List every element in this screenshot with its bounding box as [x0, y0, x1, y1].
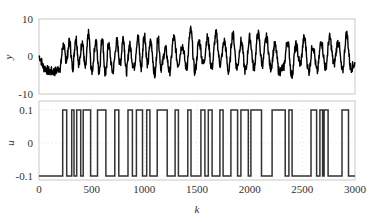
y-axis-label: y: [2, 54, 14, 60]
bottom-grid: [39, 101, 355, 180]
x-tick-1000: 1000: [133, 183, 156, 195]
chart: 10 0 -10 y 0.1 0 -0.1 u 0500100015002000…: [0, 0, 376, 222]
u-tick-neg0.1: -0.1: [16, 170, 33, 182]
bottom-plot-frame: [39, 101, 355, 180]
x-tick-500: 500: [83, 183, 100, 195]
x-tick-2500: 2500: [291, 183, 314, 195]
y-tick-10: 10: [22, 13, 34, 25]
x-axis-label: k: [195, 203, 201, 215]
x-tick-0: 0: [36, 183, 42, 195]
u-tick-0.1: 0.1: [19, 104, 33, 116]
x-tick-1500: 1500: [186, 183, 209, 195]
y-tick-0: 0: [28, 50, 34, 62]
bottom-panel: 0.1 0 -0.1 u 050010001500200025003000 k: [4, 101, 367, 215]
y-series-line: [39, 26, 355, 78]
x-tick-3000: 3000: [344, 183, 367, 195]
top-panel: 10 0 -10 y: [2, 13, 355, 100]
u-axis-label: u: [4, 140, 16, 146]
x-tick-labels: 050010001500200025003000: [36, 183, 366, 195]
y-tick-neg10: -10: [18, 88, 33, 100]
u-tick-0: 0: [28, 137, 34, 149]
x-tick-2000: 2000: [239, 183, 262, 195]
